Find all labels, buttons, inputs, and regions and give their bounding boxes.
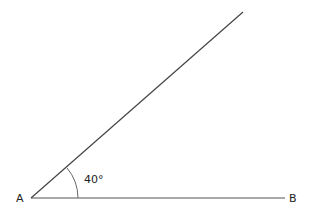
vertex-label-a: A <box>16 192 24 205</box>
ray-angled <box>31 12 243 198</box>
angle-arc <box>67 168 78 198</box>
endpoint-label-b: B <box>289 192 297 205</box>
angle-label: 40° <box>84 173 104 186</box>
angle-diagram: 40° A B <box>0 0 309 214</box>
